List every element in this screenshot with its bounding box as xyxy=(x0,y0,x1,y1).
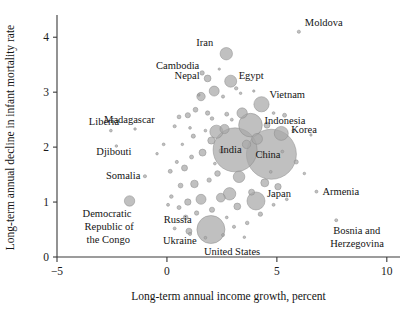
x-tick-label: 0 xyxy=(164,265,170,277)
x-tick-label: −5 xyxy=(51,265,63,277)
bubble-point xyxy=(303,172,306,175)
point-label-somalia: Somalia xyxy=(106,170,141,181)
bubble-point xyxy=(173,125,176,128)
bubble-point xyxy=(199,149,206,156)
bubble-point xyxy=(181,143,184,146)
y-axis-title: Long-term annual decline in infant morta… xyxy=(4,25,17,250)
bubble-point xyxy=(167,203,170,206)
chart-canvas: 01234−50510 IranMoldovaCambodiaNepalEgyp… xyxy=(0,0,414,312)
bubble-point xyxy=(215,171,221,177)
bubble-point xyxy=(249,189,255,195)
bubble-point xyxy=(281,150,284,153)
bubble-point xyxy=(175,160,178,163)
bubble-armenia xyxy=(315,190,318,193)
bubble-point xyxy=(234,87,237,90)
x-tick-label: 5 xyxy=(274,265,280,277)
y-tick-label: 1 xyxy=(43,196,49,208)
bubble-madagascar xyxy=(134,128,137,131)
bubble-point xyxy=(193,107,198,112)
point-label-ukraine: Ukraine xyxy=(163,235,197,246)
bubble-point xyxy=(245,221,249,225)
point-label-iran: Iran xyxy=(196,37,214,48)
bubble-point xyxy=(218,68,220,70)
bubble-iran xyxy=(220,48,232,60)
bubble-point xyxy=(221,95,224,98)
bubble-chart: 01234−50510 IranMoldovaCambodiaNepalEgyp… xyxy=(0,0,414,312)
bubble-point xyxy=(194,211,198,215)
bubble-egypt xyxy=(225,75,237,87)
bubble-point xyxy=(269,170,272,173)
bubble-point xyxy=(237,108,247,118)
y-tick-label: 2 xyxy=(43,141,49,153)
bubble-point xyxy=(198,94,201,97)
bubble-nepal xyxy=(204,75,211,82)
point-label-herzegovina: Herzegovina xyxy=(330,238,384,249)
bubble-point xyxy=(209,86,219,96)
point-label-india: India xyxy=(220,144,242,155)
bubble-vietnam xyxy=(254,97,269,112)
point-label-djibouti: Djibouti xyxy=(96,146,131,157)
bubble-somalia xyxy=(143,175,146,178)
point-label-japan: Japan xyxy=(267,188,292,199)
bubble-point xyxy=(191,134,195,138)
bubble-point xyxy=(213,162,216,165)
point-label-china: China xyxy=(255,149,280,160)
bubble-point xyxy=(234,203,241,210)
bubble-point xyxy=(230,118,233,121)
bubble-point xyxy=(178,183,183,188)
point-label-vietnam: Vietnam xyxy=(269,89,305,100)
bubble-point xyxy=(272,112,275,115)
bubble-liberia xyxy=(109,129,112,132)
bubble-point xyxy=(232,225,235,228)
bubble-point xyxy=(185,113,190,118)
bubble-point xyxy=(173,227,176,230)
bubble-point xyxy=(177,115,181,119)
bubble-point xyxy=(225,216,228,219)
bubble-point xyxy=(191,180,199,188)
bubble-point xyxy=(189,126,192,129)
bubble-point xyxy=(216,193,225,202)
bubble-point xyxy=(272,203,275,206)
bubble-point xyxy=(294,160,298,164)
x-axis-title: Long-term annual income growth, percent xyxy=(131,290,326,303)
point-label-republic-of: Republic of xyxy=(85,221,135,232)
point-label-the-congo: the Congo xyxy=(87,234,130,245)
y-tick-label: 3 xyxy=(43,86,49,98)
bubble-point xyxy=(162,143,165,146)
bubble-point xyxy=(220,124,229,133)
point-label-cambodia: Cambodia xyxy=(156,60,199,71)
bubble-moldova xyxy=(297,30,300,33)
bubble-point xyxy=(205,111,209,115)
bubble-point xyxy=(170,195,174,199)
x-tick-label: 10 xyxy=(381,265,393,277)
bubble-point xyxy=(210,117,214,121)
bubble-point xyxy=(242,140,250,148)
point-label-russia: Russia xyxy=(164,214,192,225)
bubble-point xyxy=(239,92,242,95)
bubble-point xyxy=(190,155,194,159)
bubble-korea xyxy=(274,126,288,140)
point-label-armenia: Armenia xyxy=(322,186,359,197)
bubble-point xyxy=(252,133,263,144)
bubble-bosnia-and xyxy=(335,219,338,222)
bubble-united-states xyxy=(197,216,225,244)
bubble-point xyxy=(208,137,215,144)
bubble-point xyxy=(196,194,206,204)
bubble-point xyxy=(253,90,255,92)
bubble-democratic xyxy=(124,196,134,206)
y-tick-label: 4 xyxy=(43,31,49,43)
point-label-democratic: Democratic xyxy=(83,208,132,219)
bubble-point xyxy=(168,169,172,173)
bubble-point xyxy=(258,212,262,216)
bubble-point xyxy=(222,234,225,237)
point-label-egypt: Egypt xyxy=(239,70,264,81)
bubble-point xyxy=(182,165,188,171)
bubble-point xyxy=(233,171,245,183)
y-tick-label: 0 xyxy=(43,251,49,263)
bubble-point xyxy=(204,129,207,132)
point-label-bosnia-and: Bosnia and xyxy=(333,225,381,236)
bubble-cambodia xyxy=(200,71,204,75)
bubble-point xyxy=(156,152,159,155)
bubble-point xyxy=(185,199,191,205)
bubble-point xyxy=(243,236,246,239)
